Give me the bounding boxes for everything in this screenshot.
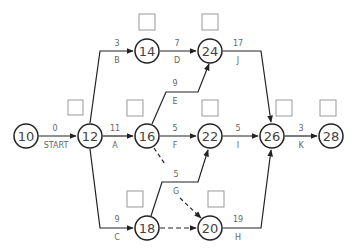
activity-b: B [114, 56, 120, 65]
edge-g [151, 150, 208, 216]
duration-h: 19 [233, 215, 243, 224]
duration-b: 3 [114, 39, 119, 48]
duration-f: 5 [172, 124, 177, 133]
node-label-16: 16 [139, 129, 156, 144]
network-diagram: 10 12 14 24 16 22 26 28 18 20 0 START 3 … [0, 0, 352, 252]
activity-g: G [173, 187, 179, 196]
activity-h: H [235, 233, 241, 242]
box-22 [202, 100, 218, 116]
box-28 [320, 100, 336, 116]
activity-c: C [114, 233, 120, 242]
duration-start: 0 [52, 124, 57, 133]
node-label-28: 28 [323, 129, 340, 144]
duration-e: 9 [172, 79, 177, 88]
node-label-10: 10 [18, 129, 35, 144]
activity-d: D [174, 56, 180, 65]
duration-i: 5 [235, 124, 240, 133]
activity-e: E [172, 97, 177, 106]
activity-i: I [237, 141, 239, 150]
box-16 [127, 100, 143, 116]
edge-h [223, 150, 271, 228]
node-label-22: 22 [202, 129, 219, 144]
duration-j: 17 [233, 39, 243, 48]
node-label-26: 26 [264, 129, 281, 144]
box-26 [276, 100, 292, 116]
activity-a: A [112, 141, 118, 150]
node-label-24: 24 [202, 44, 219, 59]
box-12 [68, 100, 83, 115]
edge-dummy-16-20 [154, 148, 165, 164]
node-label-12: 12 [82, 129, 99, 144]
duration-g: 5 [173, 170, 178, 179]
edge-j [223, 51, 271, 122]
box-14 [139, 14, 155, 30]
activity-j: J [236, 56, 239, 65]
box-24 [202, 14, 218, 30]
box-20 [208, 191, 224, 207]
duration-k: 3 [298, 124, 303, 133]
duration-d: 7 [174, 39, 179, 48]
box-18 [127, 191, 143, 207]
duration-c: 9 [114, 215, 119, 224]
node-label-14: 14 [139, 44, 156, 59]
activity-start: START [44, 141, 69, 150]
duration-a: 11 [110, 124, 120, 133]
activity-f: F [173, 141, 178, 150]
edge-dummy-16-20-b [180, 198, 201, 218]
node-label-20: 20 [202, 221, 219, 236]
activity-k: K [298, 141, 304, 150]
edge-c [90, 149, 133, 228]
node-label-18: 18 [139, 221, 156, 236]
edge-e [152, 64, 209, 124]
